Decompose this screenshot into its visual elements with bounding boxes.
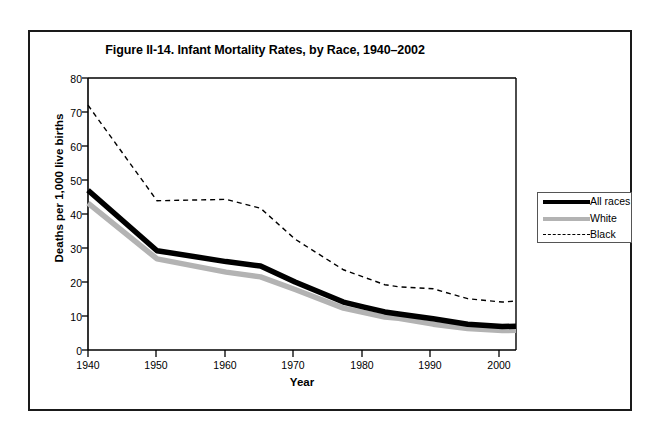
- legend-item-white: White: [538, 211, 633, 228]
- legend-swatch-white: [543, 217, 590, 221]
- series-line-white: [88, 203, 516, 331]
- legend-swatch-all-races: [543, 200, 590, 204]
- x-axis-ticks: [88, 350, 499, 357]
- y-axis-ticks: [82, 78, 88, 350]
- legend-item-black: Black: [538, 227, 633, 244]
- axis-spines: [88, 78, 516, 350]
- legend-item-all-races: All races: [538, 194, 633, 211]
- plot-area-wrapper: Deaths per 1,000 live births Year 80 70 …: [30, 32, 634, 413]
- series-line-black: [88, 105, 516, 302]
- chart-legend: All races White Black: [537, 192, 632, 243]
- legend-swatch-black: [543, 234, 590, 235]
- legend-label-black: Black: [590, 228, 616, 240]
- figure-frame: Figure II-14. Infant Mortality Rates, by…: [28, 30, 632, 411]
- legend-label-white: White: [590, 212, 617, 224]
- legend-label-all-races: All races: [590, 195, 630, 207]
